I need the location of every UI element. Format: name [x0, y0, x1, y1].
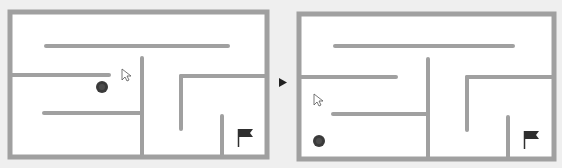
maze-scene: [0, 0, 562, 168]
maze-comparison-stage: [0, 0, 562, 168]
maze-after: [299, 14, 554, 159]
ball-highlight: [316, 138, 322, 144]
maze-before: [10, 12, 267, 157]
ball-highlight: [99, 84, 105, 90]
maze-frame: [10, 12, 267, 157]
play-triangle-icon: [279, 78, 287, 87]
